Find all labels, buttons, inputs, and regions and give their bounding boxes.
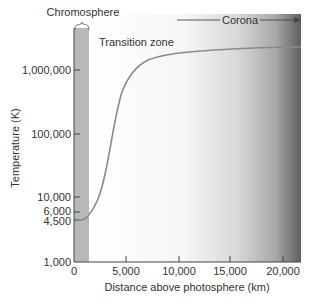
- chromosphere-label: Chromosphere: [47, 6, 120, 18]
- y-axis-title: Temperature (K): [9, 108, 21, 187]
- y-tick-label: 100,000: [31, 128, 71, 140]
- x-tick-label: 10,000: [162, 265, 196, 277]
- x-tick-label: 5,000: [112, 265, 140, 277]
- x-axis-title: Distance above photosphere (km): [104, 281, 269, 293]
- x-tick-label: 0: [71, 265, 77, 277]
- chromosphere-band: [74, 28, 89, 262]
- y-tick-labels: 1,000,000 100,000 10,000 6,000 4,500 1,0…: [22, 64, 71, 268]
- x-tick-labels: 0 5,000 10,000 15,000 20,000: [71, 265, 300, 277]
- corona-label: Corona: [222, 14, 259, 26]
- transition-zone-label: Transition zone: [99, 36, 174, 48]
- x-tick-label: 15,000: [213, 265, 247, 277]
- y-tick-label: 1,000: [43, 256, 71, 268]
- x-tick-label: 20,000: [266, 265, 300, 277]
- temperature-chart: Chromosphere Transition zone Corona 1,00…: [0, 0, 317, 304]
- y-tick-label: 4,500: [43, 215, 71, 227]
- y-tick-label: 1,000,000: [22, 64, 71, 76]
- y-tick-label: 10,000: [37, 191, 71, 203]
